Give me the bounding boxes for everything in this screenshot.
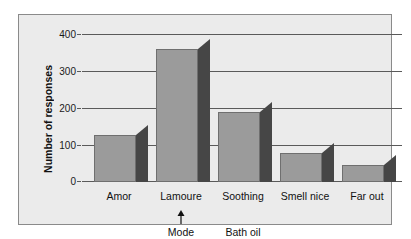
bar-front-face <box>218 112 260 182</box>
gridline-300 <box>82 71 402 72</box>
annotation-mode: Mode <box>168 226 194 238</box>
bar-side-face <box>322 153 334 182</box>
bar-front-face <box>94 135 136 182</box>
bar-soothing <box>218 102 272 182</box>
bar-front-face <box>156 49 198 182</box>
tick-mark-200 <box>77 108 81 109</box>
y-tick-label-200: 200 <box>59 103 76 114</box>
x-tick-label-far-out: Far out <box>350 190 383 202</box>
tick-mark-100 <box>77 145 81 146</box>
bar-front-face <box>280 153 322 182</box>
bar-top-face <box>322 143 334 153</box>
bar-side-face <box>384 165 396 182</box>
chart-panel: Number of responses 400 300 200 100 0 Am… <box>18 14 392 225</box>
bar-top-face <box>136 125 148 135</box>
x-tick-label-smell-nice: Smell nice <box>281 190 329 202</box>
bar-top-face <box>384 155 396 165</box>
y-tick-label-0: 0 <box>70 176 76 187</box>
bar-front-face <box>342 165 384 182</box>
bar-side-face <box>198 49 210 182</box>
bar-lamoure <box>156 39 210 182</box>
bar-amor <box>94 125 148 182</box>
y-tick-label-300: 300 <box>59 66 76 77</box>
x-tick-label-soothing: Soothing <box>222 190 263 202</box>
annotation-bath-oil: Bath oil <box>225 226 260 238</box>
x-tick-label-amor: Amor <box>106 190 131 202</box>
y-tick-label-100: 100 <box>59 140 76 151</box>
bar-far-out <box>342 155 396 182</box>
y-axis-title: Number of responses <box>42 65 56 173</box>
x-tick-label-lamoure: Lamoure <box>160 190 201 202</box>
bar-side-face <box>260 112 272 182</box>
bar-smell-nice <box>280 143 334 182</box>
tick-mark-0 <box>77 181 81 182</box>
bar-side-face <box>136 135 148 182</box>
mode-arrow-up-icon <box>177 210 186 224</box>
bar-top-face <box>260 102 272 112</box>
tick-mark-400 <box>77 34 81 35</box>
gridline-400 <box>82 34 402 35</box>
chart-figure: Number of responses 400 300 200 100 0 Am… <box>0 0 411 239</box>
bar-top-face <box>198 39 210 49</box>
tick-mark-300 <box>77 71 81 72</box>
plot-area: 400 300 200 100 0 <box>82 34 402 182</box>
y-tick-label-400: 400 <box>59 29 76 40</box>
